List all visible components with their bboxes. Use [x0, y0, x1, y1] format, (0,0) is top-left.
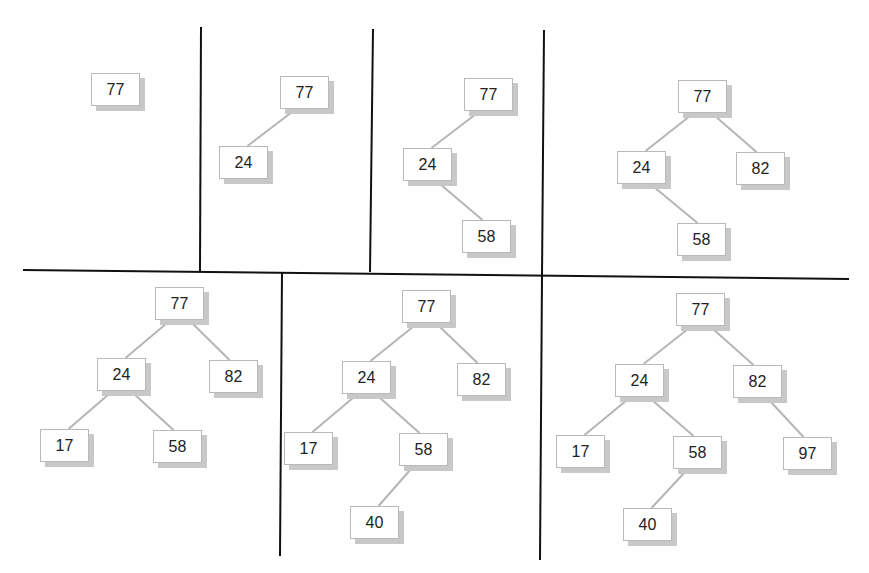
tree-edge [715, 116, 757, 152]
tree-edge [313, 397, 355, 432]
tree-edge [646, 116, 691, 151]
panel-divider [540, 276, 542, 560]
tree-node: 77 [91, 73, 140, 106]
tree-edge [126, 323, 168, 358]
tree-node: 17 [40, 429, 89, 462]
panel-divider [23, 270, 849, 279]
panel-divider [370, 29, 373, 272]
tree-node: 97 [783, 437, 832, 470]
tree-node: 40 [350, 506, 399, 539]
tree-edge [654, 187, 698, 223]
tree-node: 58 [399, 433, 448, 466]
tree-edge [440, 184, 483, 220]
tree-node: 82 [457, 363, 506, 396]
tree-node: 58 [677, 223, 726, 256]
tree-node: 77 [678, 80, 727, 113]
tree-node: 82 [209, 360, 258, 393]
tree-node: 77 [464, 78, 513, 111]
tree-node: 77 [402, 290, 451, 323]
tree-edge [585, 400, 628, 435]
tree-node: 58 [673, 436, 722, 469]
tree-edge [134, 394, 174, 430]
tree-node: 24 [342, 361, 391, 394]
tree-node: 77 [676, 293, 725, 326]
tree-node: 24 [617, 151, 666, 184]
panel-divider [200, 27, 201, 271]
tree-edge [439, 326, 478, 363]
tree-node: 58 [153, 430, 202, 463]
tree-edge [379, 397, 420, 433]
tree-edge [248, 112, 293, 146]
tree-edge [652, 472, 686, 508]
tree-node: 17 [556, 435, 605, 468]
tree-node: 40 [623, 508, 672, 541]
tree-node: 24 [403, 148, 452, 181]
tree-edge [644, 329, 689, 364]
tree-edge [770, 401, 804, 437]
tree-node: 17 [284, 432, 333, 465]
tree-edge [379, 469, 412, 506]
tree-node: 77 [155, 287, 204, 320]
tree-node: 24 [615, 364, 664, 397]
tree-node: 82 [733, 365, 782, 398]
tree-node: 24 [97, 358, 146, 391]
tree-edge [432, 114, 477, 148]
tree-node: 77 [280, 76, 329, 109]
panel-divider [542, 30, 544, 276]
panel-divider [280, 273, 282, 556]
tree-edge [192, 323, 230, 360]
tree-edge [652, 400, 694, 436]
tree-edge [371, 326, 415, 361]
tree-node: 58 [462, 220, 511, 253]
tree-node: 82 [736, 152, 785, 185]
tree-edge [69, 394, 110, 429]
tree-node: 24 [219, 146, 268, 179]
tree-edge [713, 329, 754, 365]
